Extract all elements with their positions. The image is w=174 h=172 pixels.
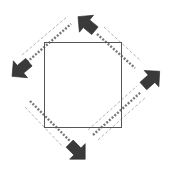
diagram-svg: [0, 0, 174, 172]
diagram-canvas: [0, 0, 174, 172]
square-outline: [45, 43, 122, 128]
guide-line-bottom-right-inner: [88, 86, 137, 130]
dotted-line-bottom-left: [30, 101, 70, 141]
dotted-line-bottom-right: [93, 92, 141, 135]
arrow-right-icon: [136, 63, 167, 94]
arrow-bottom-icon: [62, 136, 93, 167]
dotted-line-top-right: [97, 34, 135, 68]
